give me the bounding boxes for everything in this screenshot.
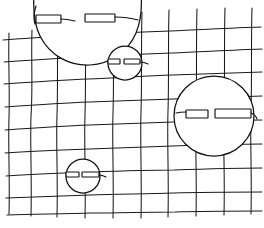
face-upper-middle-eye-left-rect — [108, 59, 120, 64]
face-right-large-eye-left-rect — [186, 110, 208, 118]
face-upper-middle-eye-right-rect — [124, 59, 140, 64]
sketch-canvas — [0, 0, 264, 228]
grid-vline-1 — [9, 33, 10, 214]
face-bottom-left-eye-left-rect — [66, 172, 79, 177]
grid-vline-2 — [31, 30, 32, 216]
grid-vline-6 — [141, 12, 142, 218]
face-top-left-eye-left-rect — [36, 15, 61, 23]
face-right-large-eye-right-rect — [215, 109, 251, 118]
face-top-left-eye-right-rect — [85, 14, 115, 22]
face-bottom-left-eye-right-rect — [82, 172, 99, 177]
sketch-drawing — [0, 0, 264, 228]
face-bottom-left — [66, 159, 106, 193]
grid-hline-8 — [6, 192, 262, 198]
grid-vline-7 — [168, 10, 169, 217]
